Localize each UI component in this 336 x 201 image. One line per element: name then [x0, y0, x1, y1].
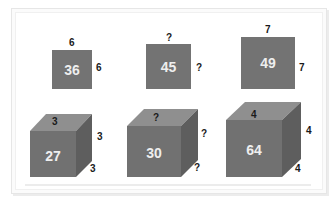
square-1-side-label: 6	[96, 63, 102, 73]
square-3-value: 49	[260, 55, 276, 71]
square-1-value: 36	[64, 62, 80, 78]
divider	[25, 184, 311, 186]
square-3-side-label: 7	[299, 63, 305, 73]
square-1: 36	[52, 50, 92, 89]
square-2: 45	[146, 44, 191, 89]
square-3-top-label: 7	[265, 25, 271, 35]
cube-3-depth-label: 4	[295, 164, 301, 174]
cube-1-side-label: 3	[97, 132, 103, 142]
cube-2-side-label: ?	[201, 129, 207, 139]
cube-3-side-label: 4	[306, 126, 312, 136]
square-3: 49	[241, 37, 295, 89]
cube-1-value: 27	[30, 148, 76, 164]
cube-3-top-label: 4	[251, 110, 257, 120]
square-1-top-label: 6	[69, 38, 75, 48]
cube-1-top-label: 3	[52, 117, 58, 127]
square-2-value: 45	[161, 59, 177, 75]
cube-2-depth-label: ?	[194, 163, 200, 173]
cube-3-shape	[226, 101, 306, 179]
cube-3: 64	[226, 101, 306, 179]
cube-2-value: 30	[127, 145, 181, 161]
square-2-top-label: ?	[166, 33, 172, 43]
cube-3-value: 64	[226, 142, 282, 158]
square-2-side-label: ?	[196, 63, 202, 73]
cube-1-depth-label: 3	[90, 164, 96, 174]
cube-2-top-label: ?	[153, 113, 159, 123]
